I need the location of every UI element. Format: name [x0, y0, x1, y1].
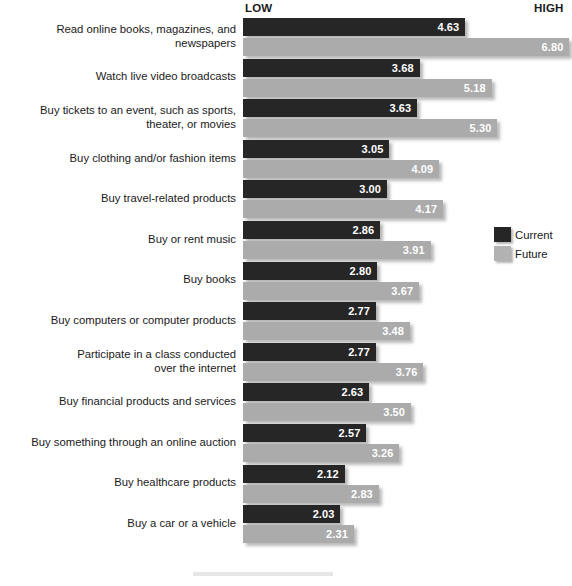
bar-future: 2.83 [243, 485, 379, 503]
bar-group: Buy computers or computer products2.773.… [0, 302, 572, 340]
bar-value-label: 2.83 [351, 488, 373, 500]
bar-future: 5.30 [243, 119, 497, 137]
bar-value-label: 2.57 [339, 427, 361, 439]
bar-current: 2.03 [243, 505, 340, 523]
bar-current: 3.00 [243, 180, 387, 198]
bar-value-label: 3.50 [383, 406, 405, 418]
bar-current: 2.77 [243, 302, 376, 320]
bar-group: Participate in a class conducted over th… [0, 343, 572, 381]
bar-value-label: 2.77 [348, 305, 370, 317]
category-label: Buy financial products and services [0, 394, 236, 408]
bar-future: 3.67 [243, 282, 419, 300]
legend: CurrentFuture [494, 225, 572, 263]
bar-group: Buy clothing and/or fashion items3.054.0… [0, 140, 572, 178]
legend-swatch-icon [494, 246, 511, 261]
category-label: Buy travel-related products [0, 191, 236, 205]
bar-future: 5.18 [243, 79, 492, 97]
bar-current: 2.80 [243, 262, 377, 280]
bar-value-label: 6.80 [542, 41, 564, 53]
bar-current: 3.05 [243, 140, 389, 158]
bar-value-label: 2.86 [352, 224, 374, 236]
bar-value-label: 3.63 [389, 102, 411, 114]
bar-value-label: 3.68 [392, 62, 414, 74]
bar-value-label: 3.26 [372, 447, 394, 459]
bar-group: Buy or rent music2.863.91 [0, 221, 572, 259]
bar-current: 3.63 [243, 99, 417, 117]
legend-item-future[interactable]: Future [494, 244, 572, 263]
legend-swatch-icon [494, 227, 511, 242]
bar-current: 2.63 [243, 383, 369, 401]
bar-group: Read online books, magazines, and newspa… [0, 18, 572, 56]
legend-label: Future [515, 248, 548, 260]
bar-value-label: 2.31 [326, 528, 348, 540]
category-label: Participate in a class conducted over th… [0, 347, 236, 375]
bar-value-label: 3.76 [396, 366, 418, 378]
plot-area: Read online books, magazines, and newspa… [0, 18, 572, 558]
bar-value-label: 5.18 [464, 82, 486, 94]
bar-future: 2.31 [243, 525, 354, 543]
bar-value-label: 5.30 [470, 122, 492, 134]
bar-future: 3.50 [243, 403, 411, 421]
bar-future: 4.17 [243, 200, 443, 218]
category-label: Buy or rent music [0, 232, 236, 246]
bar-value-label: 2.63 [341, 386, 363, 398]
bar-group: Buy travel-related products3.004.17 [0, 180, 572, 218]
bar-value-label: 4.63 [437, 21, 459, 33]
bar-value-label: 4.09 [412, 163, 434, 175]
bar-current: 3.68 [243, 59, 420, 77]
bar-value-label: 3.00 [359, 183, 381, 195]
bar-future: 3.26 [243, 444, 399, 462]
bar-value-label: 2.12 [317, 468, 339, 480]
category-label: Buy computers or computer products [0, 313, 236, 327]
scale-label-low: LOW [245, 2, 272, 14]
bar-future: 3.76 [243, 363, 423, 381]
scale-label-high: HIGH [534, 2, 564, 14]
bar-group: Buy tickets to an event, such as sports,… [0, 99, 572, 137]
bar-value-label: 4.17 [415, 203, 437, 215]
bar-value-label: 3.91 [403, 244, 425, 256]
bar-group: Watch live video broadcasts3.685.18 [0, 59, 572, 97]
bar-value-label: 2.80 [350, 265, 372, 277]
bar-future: 6.80 [243, 38, 569, 56]
bar-chart: LOW HIGH Read online books, magazines, a… [0, 0, 572, 586]
bar-current: 2.57 [243, 424, 366, 442]
bar-future: 4.09 [243, 160, 439, 178]
bar-future: 3.48 [243, 322, 410, 340]
bar-group: Buy healthcare products2.122.83 [0, 465, 572, 503]
bar-group: Buy something through an online auction2… [0, 424, 572, 462]
bar-current: 4.63 [243, 18, 465, 36]
bar-group: Buy a car or a vehicle2.032.31 [0, 505, 572, 543]
bar-future: 3.91 [243, 241, 431, 259]
bar-current: 2.86 [243, 221, 380, 239]
category-label: Watch live video broadcasts [0, 69, 236, 83]
bar-value-label: 2.03 [313, 508, 335, 520]
bar-group: Buy books2.803.67 [0, 262, 572, 300]
category-label: Buy healthcare products [0, 475, 236, 489]
bar-value-label: 3.48 [382, 325, 404, 337]
category-label: Read online books, magazines, and newspa… [0, 22, 236, 50]
category-label: Buy tickets to an event, such as sports,… [0, 103, 236, 131]
legend-label: Current [515, 229, 553, 241]
bar-value-label: 2.77 [348, 346, 370, 358]
category-label: Buy books [0, 272, 236, 286]
bar-current: 2.77 [243, 343, 376, 361]
page-artifact-mark [193, 572, 333, 576]
bar-value-label: 3.05 [362, 143, 384, 155]
bar-current: 2.12 [243, 465, 345, 483]
bar-group: Buy financial products and services2.633… [0, 383, 572, 421]
category-label: Buy clothing and/or fashion items [0, 151, 236, 165]
legend-item-current[interactable]: Current [494, 225, 572, 244]
bar-value-label: 3.67 [391, 285, 413, 297]
category-label: Buy a car or a vehicle [0, 516, 236, 530]
category-label: Buy something through an online auction [0, 435, 236, 449]
